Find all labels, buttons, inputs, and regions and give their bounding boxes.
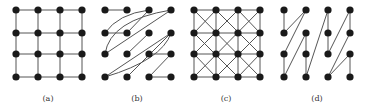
- network-topology-figure: (a) (b): [0, 0, 367, 106]
- panel-d: (d): [280, 6, 353, 103]
- panel-a-edges: [16, 10, 82, 77]
- panel-b-label: (b): [131, 94, 142, 103]
- panel-b: (b): [101, 6, 174, 103]
- panel-d-label: (d): [311, 94, 322, 103]
- panel-c-edges: [194, 10, 260, 77]
- panel-c-label: (c): [221, 94, 232, 103]
- panel-a-label: (a): [42, 94, 53, 103]
- panel-a: (a): [12, 6, 85, 103]
- panel-d-edges: [284, 10, 350, 77]
- panel-a-nodes: [12, 6, 85, 80]
- panel-c: (c): [190, 6, 263, 103]
- panel-b-edges: [105, 10, 171, 77]
